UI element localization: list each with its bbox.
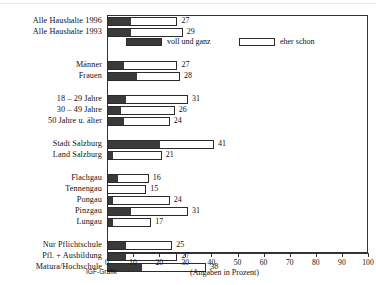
bar-segment-voll-und-ganz xyxy=(108,141,160,148)
x-tick xyxy=(211,253,212,257)
category-label: Pongau xyxy=(0,195,102,205)
bar-value-label: 41 xyxy=(218,139,226,149)
bar-value-label: 27 xyxy=(181,16,189,26)
x-tick xyxy=(159,253,160,257)
stacked-bar[interactable] xyxy=(107,17,177,26)
x-tick-label: 70 xyxy=(286,258,294,267)
category-label: Frauen xyxy=(0,71,102,81)
legend-swatch-eher-schon xyxy=(239,38,275,46)
bar-value-label: 21 xyxy=(166,150,174,160)
stacked-bar[interactable] xyxy=(107,140,214,149)
stacked-bar[interactable] xyxy=(107,72,180,81)
bar-row: 50 Jahre u. älter24 xyxy=(0,117,376,127)
x-tick-label: 40 xyxy=(208,258,216,267)
stacked-bar[interactable] xyxy=(107,174,149,183)
bar-row: 18 – 29 Jahre31 xyxy=(0,95,376,105)
legend-swatch-voll-und-ganz xyxy=(126,38,162,46)
x-tick xyxy=(238,253,239,257)
chart-canvas: Alle Haushalte 199627Alle Haushalte 1993… xyxy=(0,0,376,285)
category-label: Stadt Salzburg xyxy=(0,139,102,149)
bar-segment-voll-und-ganz xyxy=(108,96,126,103)
bar-row: Lungau17 xyxy=(0,218,376,228)
bar-segment-voll-und-ganz xyxy=(108,18,131,25)
category-label: Flachgau xyxy=(0,173,102,183)
category-label: 18 – 29 Jahre xyxy=(0,94,102,104)
x-tick xyxy=(368,253,369,257)
category-label: Nur Pflichtschule xyxy=(0,240,102,250)
bar-segment-voll-und-ganz xyxy=(108,107,121,114)
bar-segment-voll-und-ganz xyxy=(108,208,131,215)
bar-segment-voll-und-ganz xyxy=(108,219,113,226)
bar-row: Alle Haushalte 199627 xyxy=(0,17,376,27)
chart-legend: voll und ganz eher schon xyxy=(0,37,376,48)
x-tick-label: 100 xyxy=(362,258,373,267)
bar-segment-voll-und-ganz xyxy=(108,73,137,80)
bar-row: Pinzgau31 xyxy=(0,207,376,217)
stacked-bar[interactable] xyxy=(107,61,177,70)
bar-segment-voll-und-ganz xyxy=(108,242,126,249)
bar-segment-voll-und-ganz xyxy=(108,29,131,36)
chart-credit: IGF-Grafik xyxy=(86,268,117,276)
bar-row: Nur Pflichtschule25 xyxy=(0,241,376,251)
stacked-bar[interactable] xyxy=(107,196,170,205)
bar-row: Flachgau16 xyxy=(0,174,376,184)
x-tick-label: 20 xyxy=(155,258,163,267)
bar-row: Pongau24 xyxy=(0,196,376,206)
legend-label-voll-und-ganz: voll und ganz xyxy=(167,37,211,47)
x-tick-label: 90 xyxy=(338,258,346,267)
category-label: Pinzgau xyxy=(0,206,102,216)
x-tick-label: 30 xyxy=(182,258,190,267)
x-tick-label: 50 xyxy=(234,258,242,267)
stacked-bar[interactable] xyxy=(107,207,188,216)
stacked-bar[interactable] xyxy=(107,95,188,104)
x-tick xyxy=(316,253,317,257)
bar-segment-voll-und-ganz xyxy=(108,197,113,204)
category-label: 50 Jahre u. älter xyxy=(0,116,102,126)
category-label: Land Salzburg xyxy=(0,150,102,160)
category-label: Pfl. + Ausbildung xyxy=(0,251,102,261)
stacked-bar[interactable] xyxy=(107,218,151,227)
x-tick xyxy=(290,253,291,257)
x-tick xyxy=(133,253,134,257)
bar-value-label: 26 xyxy=(179,105,187,115)
stacked-bar[interactable] xyxy=(107,151,162,160)
category-label: Tennengau xyxy=(0,184,102,194)
x-tick-label: 10 xyxy=(129,258,137,267)
bar-value-label: 25 xyxy=(176,240,184,250)
x-tick-label: 0 xyxy=(105,258,109,267)
x-axis-label: (Angaben in Prozent) xyxy=(190,268,259,278)
bar-row: Stadt Salzburg41 xyxy=(0,140,376,150)
x-tick-label: 60 xyxy=(260,258,268,267)
stacked-bar[interactable] xyxy=(107,241,172,250)
stacked-bar[interactable] xyxy=(107,117,170,126)
category-label: Alle Haushalte 1993 xyxy=(0,27,102,37)
bar-value-label: 15 xyxy=(150,184,158,194)
bar-row: Tennengau15 xyxy=(0,185,376,195)
x-tick xyxy=(264,253,265,257)
x-tick xyxy=(342,253,343,257)
bar-segment-voll-und-ganz xyxy=(108,152,113,159)
stacked-bar[interactable] xyxy=(107,185,146,194)
x-tick xyxy=(185,253,186,257)
x-tick-label: 80 xyxy=(312,258,320,267)
stacked-bar[interactable] xyxy=(107,106,175,115)
legend-label-eher-schon: eher schon xyxy=(280,37,314,47)
bar-row: Land Salzburg21 xyxy=(0,151,376,161)
bar-value-label: 24 xyxy=(174,116,182,126)
x-tick xyxy=(107,253,108,257)
bar-value-label: 17 xyxy=(155,217,163,227)
bar-row: Frauen28 xyxy=(0,72,376,82)
bar-value-label: 24 xyxy=(174,195,182,205)
bar-row: Männer27 xyxy=(0,61,376,71)
category-label: 30 – 49 Jahre xyxy=(0,105,102,115)
bar-rows: Alle Haushalte 199627Alle Haushalte 1993… xyxy=(0,15,376,253)
bar-value-label: 27 xyxy=(181,60,189,70)
top-rule xyxy=(0,3,376,4)
bar-segment-voll-und-ganz xyxy=(108,253,126,260)
category-label: Alle Haushalte 1996 xyxy=(0,16,102,26)
category-label: Männer xyxy=(0,60,102,70)
stacked-bar[interactable] xyxy=(107,28,183,37)
bar-value-label: 29 xyxy=(187,27,195,37)
bar-segment-voll-und-ganz xyxy=(108,62,124,69)
bar-segment-voll-und-ganz xyxy=(108,118,124,125)
